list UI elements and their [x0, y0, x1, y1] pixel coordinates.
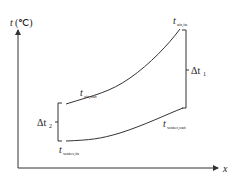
- temperature-diagram: t (℃) x t air,in t air,out t water,in t …: [0, 0, 233, 177]
- label-t-air-in: t air,in: [173, 15, 188, 28]
- label-t-water-in: t water,in: [59, 144, 80, 157]
- svg-text:t: t: [80, 87, 83, 98]
- x-axis-label: x: [222, 163, 228, 174]
- svg-text:2: 2: [49, 123, 52, 129]
- svg-text:air,in: air,in: [177, 22, 188, 28]
- svg-text:water,out: water,out: [167, 125, 186, 131]
- svg-text:Δt: Δt: [191, 65, 200, 76]
- svg-text:t: t: [173, 15, 176, 26]
- svg-text:Δt: Δt: [37, 117, 46, 128]
- air-temperature-curve: [66, 29, 180, 104]
- delta-t1-bracket: [182, 30, 186, 108]
- delta-t2-bracket: [58, 103, 62, 141]
- label-t-water-out: t water,out: [163, 118, 186, 131]
- label-delta-t1: Δt 1: [191, 65, 206, 77]
- svg-text:water,in: water,in: [63, 151, 80, 157]
- svg-text:air,out: air,out: [84, 94, 97, 100]
- svg-text:1: 1: [203, 71, 206, 77]
- y-axis-label: t: [10, 17, 13, 28]
- svg-text:t: t: [59, 144, 62, 155]
- label-t-air-out: t air,out: [80, 87, 97, 100]
- label-delta-t2: Δt 2: [37, 117, 52, 129]
- svg-text:t: t: [163, 118, 166, 129]
- y-axis-unit: (℃): [15, 17, 33, 29]
